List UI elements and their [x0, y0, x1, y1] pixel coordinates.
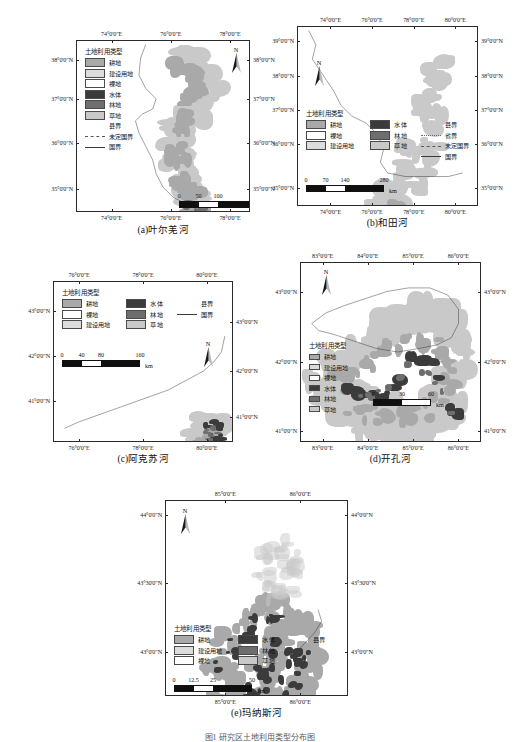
legend-label-water: 水体 — [262, 635, 274, 644]
axis-label-left: 43°30'0"N — [122, 580, 162, 586]
legend-e: 土地利用类型耕地建设用地裸地水体林地草地县界 — [174, 624, 325, 667]
panel-caption-e: (e)玛纳斯河 — [105, 705, 408, 719]
legend-label-bare: 裸地 — [198, 656, 210, 665]
scalebar-tick: 25 — [210, 677, 216, 683]
scalebar-segment — [213, 686, 251, 691]
scalebar-ticks-e: 012.52550 — [174, 677, 252, 685]
legend-swatch-built — [174, 646, 194, 655]
scalebar-segment — [194, 686, 213, 691]
scalebar-bar-e — [174, 685, 252, 692]
legend-label-county: 县界 — [313, 635, 325, 644]
axis-label-left: 43°0'0"N — [122, 649, 162, 655]
axis-tick — [300, 500, 301, 503]
figure-caption: 图1 研究区土地利用类型分布图 — [0, 731, 519, 742]
north-arrow-e: N — [178, 507, 192, 534]
legend-item-water[interactable]: 水体 — [238, 635, 274, 644]
legend-swatch-cropland — [174, 635, 194, 644]
axis-tick — [165, 515, 168, 516]
axis-label-right: 43°30'0"N — [351, 580, 376, 586]
axis-tick — [345, 515, 348, 516]
axis-tick — [345, 652, 348, 653]
axis-label-top: 86°0'0"E — [290, 491, 311, 497]
legend-columns: 耕地建设用地裸地水体林地草地县界 — [174, 635, 325, 667]
legend-column-2: 水体林地草地 — [238, 635, 274, 667]
legend-column-3: 县界 — [289, 635, 325, 667]
scalebar-segment — [175, 686, 194, 691]
legend-swatch-grass — [238, 656, 258, 665]
scalebar-unit-e: km — [257, 687, 265, 694]
axis-tick — [225, 693, 226, 696]
axis-tick — [165, 652, 168, 653]
legend-label-grass: 草地 — [262, 656, 274, 665]
axis-label-left: 44°0'0"N — [122, 512, 162, 518]
north-arrow-icon — [180, 514, 191, 534]
legend-item-cropland[interactable]: 耕地 — [174, 635, 222, 644]
axis-tick — [300, 693, 301, 696]
legend-swatch-forest — [238, 646, 258, 655]
axis-tick — [165, 583, 168, 584]
legend-label-forest: 林地 — [262, 646, 274, 655]
legend-item-grass[interactable]: 草地 — [238, 656, 274, 665]
legend-item-county[interactable]: 县界 — [289, 635, 325, 644]
north-label-e: N — [178, 507, 192, 514]
legend-label-cropland: 耕地 — [198, 635, 210, 644]
legend-title-e: 土地利用类型 — [174, 624, 325, 633]
axis-label-right: 44°0'0"N — [351, 512, 373, 518]
legend-item-forest[interactable]: 林地 — [238, 646, 274, 655]
axis-label-right: 43°0'0"N — [351, 649, 373, 655]
axis-tick — [345, 583, 348, 584]
legend-item-bare[interactable]: 裸地 — [174, 656, 222, 665]
scalebar-tick: 0 — [172, 677, 175, 683]
legend-swatch-water — [238, 635, 258, 644]
map-e[interactable]: 土地利用类型耕地建设用地裸地水体林地草地县界012.52550kmN — [165, 500, 348, 696]
legend-item-built[interactable]: 建设用地 — [174, 646, 222, 655]
axis-label-top: 85°0'0"E — [215, 491, 236, 497]
scalebar-tick: 12.5 — [188, 677, 199, 683]
scalebar-tick: 50 — [249, 677, 255, 683]
axis-tick — [225, 500, 226, 503]
scalebar-e: 012.52550km — [174, 677, 252, 692]
legend-label-built: 建设用地 — [198, 646, 222, 655]
legend-swatch-bare — [174, 656, 194, 665]
legend-column-1: 耕地建设用地裸地 — [174, 635, 222, 667]
map-frame-e: 土地利用类型耕地建设用地裸地水体林地草地县界012.52550kmN — [165, 500, 348, 696]
